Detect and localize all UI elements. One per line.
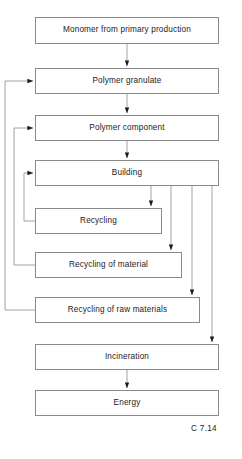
node-polymer-granulate[interactable]: Polymer granulate bbox=[35, 68, 219, 94]
edge-recycling-of-raw-materials-to-granulate bbox=[5, 81, 35, 310]
edge-recycling-of-material-to-component bbox=[14, 128, 35, 265]
node-label: Monomer from primary production bbox=[63, 26, 191, 34]
node-polymer-component[interactable]: Polymer component bbox=[35, 115, 219, 141]
node-label: Building bbox=[112, 169, 142, 177]
node-label: Recycling of raw materials bbox=[68, 306, 167, 314]
node-label: Energy bbox=[114, 399, 141, 407]
figure-caption: C 7.14 bbox=[191, 424, 217, 433]
node-monomer[interactable]: Monomer from primary production bbox=[35, 17, 219, 44]
node-incineration[interactable]: Incineration bbox=[35, 344, 219, 370]
node-label: Incineration bbox=[105, 353, 149, 361]
edge-recycling-to-building bbox=[24, 173, 35, 221]
node-recycling-of-raw-materials[interactable]: Recycling of raw materials bbox=[35, 297, 200, 323]
node-recycling[interactable]: Recycling bbox=[35, 208, 162, 234]
node-label: Recycling bbox=[80, 217, 117, 225]
node-label: Polymer granulate bbox=[93, 77, 162, 85]
node-label: Polymer component bbox=[89, 124, 164, 132]
node-label: Recycling of material bbox=[69, 261, 148, 269]
flowchart-diagram: Monomer from primary production Polymer … bbox=[0, 0, 242, 459]
node-recycling-of-material[interactable]: Recycling of material bbox=[35, 252, 182, 278]
node-building[interactable]: Building bbox=[35, 160, 219, 186]
node-energy[interactable]: Energy bbox=[35, 390, 219, 416]
